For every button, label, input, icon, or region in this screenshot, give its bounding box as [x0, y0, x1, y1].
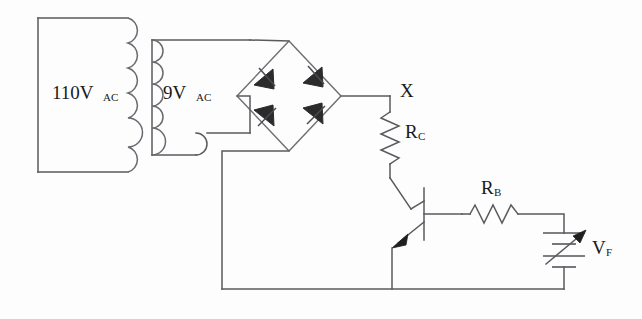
- label-base-resistor-subscript: B: [494, 186, 501, 198]
- vf-variable-arrowhead: [573, 230, 586, 243]
- primary-coil-winding: [128, 18, 143, 172]
- wire-collector-lead: [390, 178, 411, 209]
- diagram-labels: 110V AC 9V AC X R C R B V F: [52, 80, 612, 258]
- wire-rb-to-vf: [518, 214, 564, 233]
- resistor-rc-zigzag: [381, 112, 399, 164]
- diode-bridge: [237, 41, 341, 151]
- diode-bottom-right: [303, 103, 325, 124]
- diode-top-left: [254, 68, 275, 89]
- bridge-arm-top-right: [289, 41, 341, 96]
- label-primary-voltage-subscript: AC: [103, 91, 118, 103]
- label-base-resistor: R: [481, 177, 494, 198]
- circuit-diagram-root: 110V AC 9V AC X R C R B V F: [0, 0, 642, 319]
- circuit-schematic-canvas: 110V AC 9V AC X R C R B V F: [0, 0, 642, 319]
- emitter-arrowhead: [392, 234, 408, 248]
- collector-branch: [381, 96, 411, 209]
- base-branch: [462, 205, 564, 233]
- label-secondary-voltage-subscript: AC: [196, 91, 211, 103]
- source-vf: [543, 230, 586, 289]
- bridge-arm-top-left: [237, 41, 289, 96]
- npn-transistor: [392, 188, 462, 289]
- label-primary-voltage: 110V: [52, 82, 94, 103]
- wire-bridge-bottom-to-rail: [222, 151, 289, 289]
- label-collector-resistor: R: [405, 121, 418, 142]
- label-source-voltage-subscript: F: [606, 246, 612, 258]
- label-node-x: X: [400, 80, 414, 101]
- bridge-arm-bottom-left: [237, 96, 289, 151]
- label-source-voltage: V: [592, 237, 606, 258]
- wire-secondary-to-bridge-left: [237, 96, 250, 133]
- hop-arc: [196, 133, 207, 155]
- resistor-rb-zigzag: [470, 205, 518, 223]
- diode-bottom-left: [254, 105, 276, 126]
- label-collector-resistor-subscript: C: [418, 130, 425, 142]
- diode-top-right: [303, 66, 324, 87]
- wire-secondary-to-bridge-top: [250, 40, 289, 41]
- transistor-collector-segment: [411, 201, 424, 209]
- bridge-connections: [222, 40, 390, 289]
- label-secondary-voltage: 9V: [163, 82, 187, 103]
- bridge-arm-bottom-right: [289, 96, 341, 151]
